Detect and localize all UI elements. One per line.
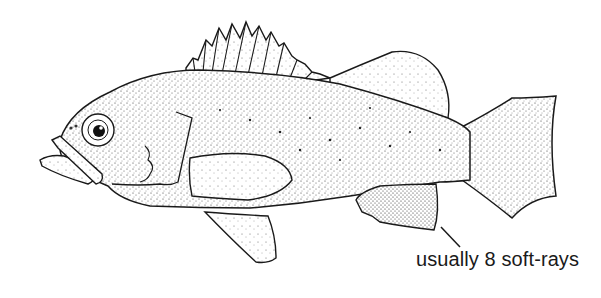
pectoral-fin xyxy=(189,153,292,200)
annotation-leader-line xyxy=(441,227,460,247)
pelvic-fin xyxy=(205,212,276,263)
anal-fin xyxy=(356,184,438,230)
soft-rays-annotation: usually 8 soft-rays xyxy=(416,248,579,271)
caudal-fin xyxy=(460,96,556,218)
